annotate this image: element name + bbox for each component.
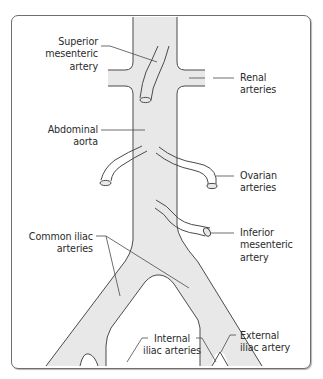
label-external-iliac-artery: External iliac artery [240, 330, 290, 355]
label-renal-arteries: Renal arteries [240, 72, 276, 97]
label-internal-iliac-arteries: Internal iliac arteries [118, 333, 226, 358]
label-common-iliac-arteries: Common iliac arteries [29, 231, 93, 256]
label-abdominal-aorta: Abdominal aorta [48, 124, 98, 149]
label-ovarian-arteries: Ovarian arteries [240, 170, 277, 195]
label-inferior-mesenteric-artery: Inferior mesenteric artery [240, 227, 293, 264]
label-superior-mesenteric-artery: Superior mesenteric artery [45, 36, 98, 73]
